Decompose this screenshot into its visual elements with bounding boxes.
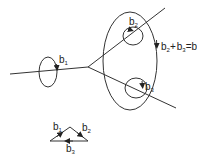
label-b3: b3 — [145, 81, 155, 93]
vector-triangle: b1 b2 b3 — [50, 121, 92, 155]
relation-label: b2+b3=b1 — [161, 41, 197, 53]
burgers-circuit-b3 — [125, 78, 147, 98]
label-b2: b2 — [129, 16, 139, 28]
triangle-label-b1: b1 — [53, 121, 63, 133]
triangle-label-b3: b3 — [66, 143, 76, 155]
dislocation-line-1 — [10, 67, 88, 74]
burgers-circuit-b1 — [39, 57, 57, 87]
triangle-label-b2: b2 — [82, 122, 92, 134]
triangle-arrow-b1-icon — [57, 134, 61, 137]
triangle-arrow-b2-icon — [77, 133, 81, 136]
arrow-b1-icon — [57, 64, 58, 68]
dislocation-line-3 — [88, 67, 176, 108]
arrow-b2-icon — [128, 29, 131, 30]
label-b1: b1 — [59, 54, 69, 66]
arrow-b3-icon — [142, 81, 143, 86]
burgers-circuit-b2 — [123, 27, 143, 45]
dislocation-node-diagram: b1 b2 b3 b2+b3=b1 b1 b2 b3 — [0, 0, 197, 161]
